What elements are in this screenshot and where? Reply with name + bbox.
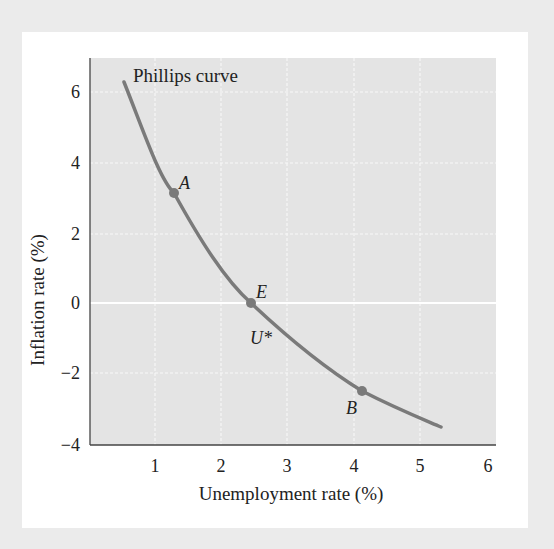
y-tick-2: 2 xyxy=(71,224,80,244)
x-tick-4: 4 xyxy=(350,456,359,476)
x-axis-title: Unemployment rate (%) xyxy=(0,483,554,505)
x-tick-6: 6 xyxy=(484,456,493,476)
y-tick-neg2: −2 xyxy=(61,363,80,383)
point-a-marker xyxy=(169,188,179,198)
point-e-marker xyxy=(246,298,256,308)
y-tick-4: 4 xyxy=(71,153,80,173)
point-e-label: E xyxy=(255,282,267,302)
point-a-label: A xyxy=(178,173,191,193)
point-b-marker xyxy=(357,386,367,396)
x-tick-1: 1 xyxy=(151,456,160,476)
x-tick-2: 2 xyxy=(217,456,226,476)
curve-label: Phillips curve xyxy=(133,65,238,86)
point-b-label: B xyxy=(346,398,357,418)
x-tick-3: 3 xyxy=(283,456,292,476)
phillips-curve-chart: 6 4 2 0 −2 −4 1 2 3 4 5 6 Phillips curve… xyxy=(0,0,554,549)
y-axis-title: Inflation rate (%) xyxy=(27,234,49,366)
plot-area xyxy=(90,58,496,445)
y-tick-0: 0 xyxy=(71,293,80,313)
y-tick-neg4: −4 xyxy=(61,435,80,455)
y-tick-6: 6 xyxy=(71,82,80,102)
u-star-label: U* xyxy=(250,328,272,348)
x-tick-5: 5 xyxy=(416,456,425,476)
